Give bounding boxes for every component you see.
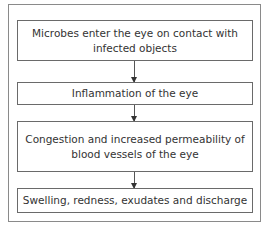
step-3-box: Congestion and increased permeability of… <box>17 121 253 172</box>
step-1-box: Microbes enter the eye on contact with i… <box>17 20 253 61</box>
step-3-label: Congestion and increased permeability of… <box>22 132 248 162</box>
arrow-1-to-2 <box>134 61 135 82</box>
arrow-3-to-4 <box>134 172 135 188</box>
arrow-2-to-3 <box>134 105 135 121</box>
step-1-label: Microbes enter the eye on contact with i… <box>22 26 248 56</box>
step-4-box: Swelling, redness, exudates and discharg… <box>17 188 253 213</box>
step-4-label: Swelling, redness, exudates and discharg… <box>23 193 247 208</box>
step-2-box: Inflammation of the eye <box>17 82 253 105</box>
step-2-label: Inflammation of the eye <box>72 86 198 101</box>
